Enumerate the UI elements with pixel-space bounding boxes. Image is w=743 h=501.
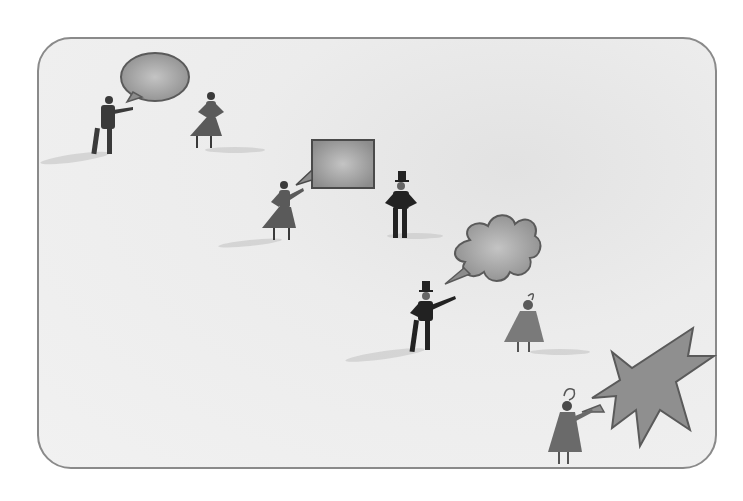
man-in-top-hat-figure-2: [410, 281, 456, 352]
illustration-canvas: [0, 0, 743, 501]
round-speech-bubble: [121, 53, 189, 102]
cloud-thought-bubble: [445, 215, 540, 284]
man-in-top-hat-figure-1: [385, 171, 417, 238]
woman-in-skirt-figure-1: [190, 92, 224, 148]
rectangular-speech-bubble: [296, 140, 374, 188]
woman-with-feathered-hat-figure-2: [548, 389, 593, 464]
woman-with-feathered-hat-figure-1: [504, 294, 544, 352]
woman-in-skirt-figure-2: [262, 181, 304, 240]
man-in-suit-figure: [91, 96, 133, 154]
spiky-burst-bubble: [582, 328, 714, 446]
